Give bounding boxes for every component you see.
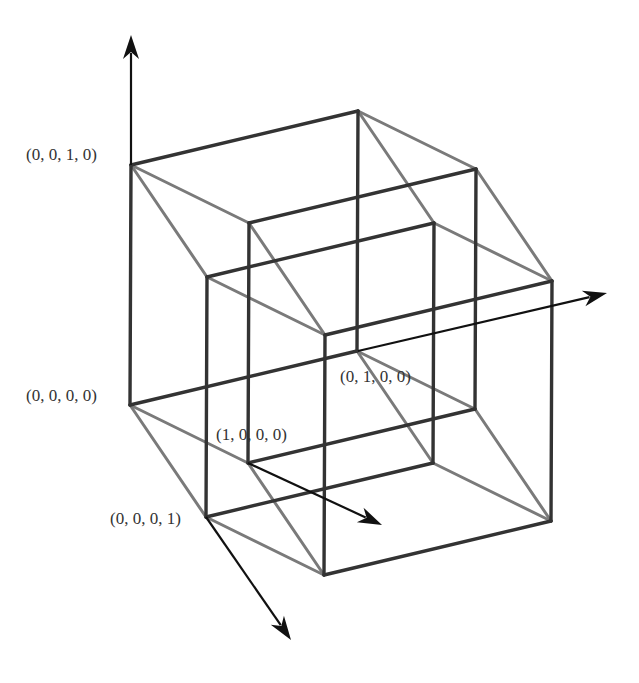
edge-z bbox=[433, 223, 434, 463]
w-axis-arrow bbox=[206, 517, 291, 640]
edge-y bbox=[207, 223, 434, 277]
edge-x bbox=[434, 223, 552, 281]
vertex-label: (0, 0, 0, 1) bbox=[110, 509, 181, 528]
z-axis-arrow bbox=[123, 35, 139, 165]
edge-x bbox=[206, 517, 324, 575]
edge-w bbox=[476, 169, 552, 281]
edge-w bbox=[130, 405, 206, 517]
edge-x bbox=[207, 277, 325, 335]
arrowhead-icon bbox=[357, 508, 382, 525]
vertex-labels: (0, 0, 1, 0)(0, 0, 0, 0)(1, 0, 0, 0)(0, … bbox=[26, 145, 411, 528]
edge-y bbox=[249, 169, 476, 223]
edge-x bbox=[131, 165, 249, 223]
tesseract-diagram: (0, 0, 1, 0)(0, 0, 0, 0)(1, 0, 0, 0)(0, … bbox=[0, 0, 639, 683]
edge-y bbox=[130, 351, 357, 405]
vertex-label: (1, 0, 0, 0) bbox=[216, 425, 287, 444]
vertex-label: (0, 0, 1, 0) bbox=[26, 145, 97, 164]
edge-z bbox=[475, 169, 476, 409]
edge-z bbox=[551, 281, 552, 521]
edge-w bbox=[358, 111, 434, 223]
edge-w bbox=[131, 165, 207, 277]
edge-z bbox=[130, 165, 131, 405]
vertex-label: (0, 1, 0, 0) bbox=[340, 367, 411, 386]
edge-y bbox=[131, 111, 358, 165]
edge-w bbox=[249, 223, 325, 335]
y-axis-arrow bbox=[358, 291, 607, 351]
coordinate-axes bbox=[123, 35, 607, 640]
edge-x bbox=[358, 111, 476, 169]
edge-y bbox=[324, 521, 551, 575]
edge-z bbox=[206, 277, 207, 517]
edge-w bbox=[475, 409, 551, 521]
vertex-label: (0, 0, 0, 0) bbox=[26, 386, 97, 405]
edge-y bbox=[206, 463, 433, 517]
edge-z bbox=[324, 335, 325, 575]
arrowhead-icon bbox=[271, 616, 291, 640]
edge-x bbox=[433, 463, 551, 521]
edge-y bbox=[325, 281, 552, 335]
edge-z bbox=[357, 111, 358, 351]
